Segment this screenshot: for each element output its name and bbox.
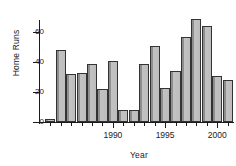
x-tick-label: 1990 [93, 131, 133, 140]
bar [181, 37, 191, 123]
bar [160, 88, 170, 123]
bar [108, 61, 118, 123]
x-tick-mark [217, 123, 218, 128]
x-tick-minor [82, 123, 83, 126]
y-tick-label: 20 [16, 88, 44, 96]
bar [45, 119, 55, 122]
x-tick-minor [196, 123, 197, 126]
y-tick-group: 0204060 [0, 0, 44, 166]
x-tick-minor [123, 123, 124, 126]
x-tick-minor [176, 123, 177, 126]
bar [139, 64, 149, 123]
x-tick-minor [102, 123, 103, 126]
bar [202, 26, 212, 122]
x-tick-label: 2000 [197, 131, 236, 140]
x-tick-minor [71, 123, 72, 126]
x-tick-minor [155, 123, 156, 126]
x-axis-label: Year [44, 150, 234, 160]
x-tick-minor [228, 123, 229, 126]
x-tick-minor [134, 123, 135, 126]
x-tick-minor [92, 123, 93, 126]
x-tick-minor [61, 123, 62, 126]
y-tick-label: 40 [16, 58, 44, 66]
x-axis-line [40, 122, 234, 123]
x-tick-label: 1995 [145, 131, 185, 140]
bar [87, 64, 97, 123]
x-tick-minor [207, 123, 208, 126]
y-tick-label: 60 [16, 28, 44, 36]
bar [223, 80, 233, 122]
x-tick-minor [50, 123, 51, 126]
bar [129, 110, 139, 122]
bar [191, 19, 201, 123]
chart-figure: Home Runs 0204060 Year 199019952000 [0, 0, 236, 166]
bar [118, 110, 128, 122]
bar [66, 74, 76, 122]
bar [97, 89, 107, 122]
x-tick-mark [113, 123, 114, 128]
bar [56, 50, 66, 122]
x-tick-minor [144, 123, 145, 126]
bar [212, 76, 222, 123]
bar [150, 46, 160, 123]
bar-series [44, 14, 234, 122]
x-tick-minor [186, 123, 187, 126]
bar [170, 71, 180, 122]
x-tick-mark [165, 123, 166, 128]
bar [77, 73, 87, 123]
